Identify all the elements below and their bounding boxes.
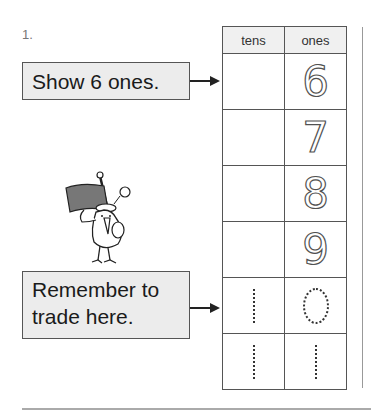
- traced-digit: 6: [302, 57, 329, 106]
- callout-remember-to-trade: Remember to trade here.: [22, 271, 190, 339]
- vertical-divider: [362, 27, 363, 388]
- tens-cell[interactable]: [223, 334, 285, 390]
- ones-cell[interactable]: 9: [285, 222, 347, 278]
- ones-cell[interactable]: 8: [285, 166, 347, 222]
- tens-cell[interactable]: [223, 166, 285, 222]
- table-row: 6: [223, 54, 347, 110]
- tens-cell[interactable]: [223, 110, 285, 166]
- problem-number: 1.: [22, 27, 33, 42]
- traced-digit-one: [315, 345, 317, 379]
- tens-cell[interactable]: [223, 54, 285, 110]
- table-row: 7: [223, 110, 347, 166]
- table-row: 8: [223, 166, 347, 222]
- table-row: [223, 278, 347, 334]
- callout-text-line1: Remember to: [32, 276, 189, 303]
- tens-cell[interactable]: [223, 278, 285, 334]
- arrow-icon: [190, 307, 218, 309]
- traced-digit: 9: [302, 225, 329, 274]
- bird-with-flag-illustration: [64, 170, 134, 270]
- callout-text-line2: trade here.: [32, 303, 189, 330]
- arrow-icon: [190, 80, 218, 82]
- table-row: [223, 334, 347, 390]
- header-ones: ones: [285, 27, 347, 54]
- ones-cell[interactable]: [285, 334, 347, 390]
- tens-cell[interactable]: [223, 222, 285, 278]
- traced-digit-one: [253, 345, 255, 379]
- ones-cell[interactable]: 7: [285, 110, 347, 166]
- ones-cell[interactable]: 6: [285, 54, 347, 110]
- callout-show-6-ones: Show 6 ones.: [22, 62, 190, 100]
- place-value-table: tens ones 6 7 8 9: [222, 26, 347, 390]
- callout-text: Show 6 ones.: [32, 70, 159, 93]
- traced-digit: 8: [302, 169, 329, 218]
- traced-digit-one: [253, 289, 255, 323]
- table-row: 9: [223, 222, 347, 278]
- traced-digit: 7: [302, 113, 329, 162]
- ones-cell[interactable]: [285, 278, 347, 334]
- bottom-divider: [22, 408, 371, 410]
- header-tens: tens: [223, 27, 285, 54]
- traced-digit-zero: [303, 288, 329, 324]
